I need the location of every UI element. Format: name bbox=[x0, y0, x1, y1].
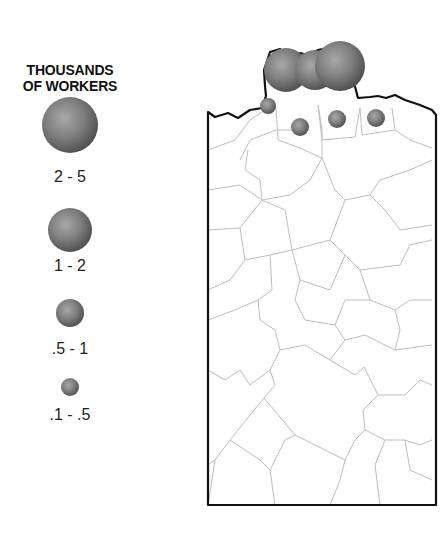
county-boundaries bbox=[208, 105, 432, 505]
legend-label-0.5-1: .5 - 1 bbox=[20, 340, 120, 358]
map-circle-medium-3 bbox=[367, 109, 385, 127]
legend-title-line1: THOUSANDS bbox=[0, 62, 140, 78]
legend-circle-2-5 bbox=[42, 97, 98, 153]
map-circle-medium-1 bbox=[291, 118, 309, 136]
map-circle-small-northwest bbox=[260, 98, 276, 114]
map-circle-large-east bbox=[315, 41, 365, 91]
legend-label-1-2: 1 - 2 bbox=[20, 257, 120, 275]
legend-label-2-5: 2 - 5 bbox=[20, 168, 120, 186]
legend-label-0.1-0.5: .1 - .5 bbox=[20, 406, 120, 424]
legend-circle-0.1-0.5 bbox=[61, 378, 79, 396]
state-outline bbox=[208, 48, 436, 505]
legend-title-line2: OF WORKERS bbox=[0, 78, 140, 94]
legend-circle-0.5-1 bbox=[56, 299, 84, 327]
legend-title: THOUSANDS OF WORKERS bbox=[0, 62, 140, 94]
map-circles bbox=[260, 41, 385, 136]
legend-circle-1-2 bbox=[48, 208, 92, 252]
map-circle-medium-2 bbox=[328, 110, 346, 128]
